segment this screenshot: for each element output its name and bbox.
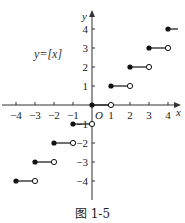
x-axis-label: x bbox=[175, 106, 181, 118]
svg-text:1: 1 bbox=[108, 109, 114, 121]
svg-text:−2: −2 bbox=[76, 137, 88, 149]
svg-text:−4: −4 bbox=[10, 109, 22, 121]
svg-text:4: 4 bbox=[83, 23, 89, 35]
svg-text:4: 4 bbox=[165, 109, 171, 121]
svg-text:−2: −2 bbox=[48, 109, 60, 121]
x-tick-labels: −4−3 −2−1 12 34 bbox=[10, 109, 171, 121]
svg-text:2: 2 bbox=[127, 109, 133, 121]
svg-text:1: 1 bbox=[83, 80, 89, 92]
y-axis-label: y bbox=[81, 10, 87, 22]
y-axis-arrow-icon bbox=[89, 10, 95, 17]
step-function-graph: −4−3 −2−1 12 34 43 21 −1−2 −3−4 O x y bbox=[0, 0, 185, 223]
svg-text:−3: −3 bbox=[76, 156, 88, 168]
function-label: y=[x] bbox=[34, 47, 62, 62]
figure-caption: 图 1-5 bbox=[0, 204, 185, 221]
svg-text:3: 3 bbox=[146, 109, 152, 121]
svg-text:−4: −4 bbox=[76, 175, 88, 187]
svg-text:3: 3 bbox=[83, 42, 89, 54]
svg-text:−3: −3 bbox=[29, 109, 41, 121]
svg-text:2: 2 bbox=[83, 61, 89, 73]
origin-label: O bbox=[95, 109, 103, 121]
